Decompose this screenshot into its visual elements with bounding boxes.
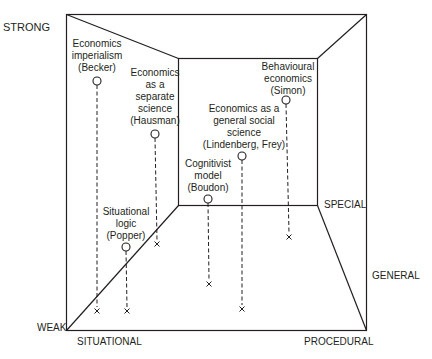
circle-marker-icon <box>151 130 159 138</box>
dashed-drop-line <box>126 251 127 307</box>
axis-label-strong: STRONG <box>3 21 50 33</box>
circle-marker-icon <box>238 152 246 160</box>
label-popper: Situational logic (Popper) <box>103 206 150 242</box>
label-boudon: Cognitivist model (Boudon) <box>185 158 231 194</box>
label-lindenberg-frey: Economics as a general social science (L… <box>203 103 285 151</box>
label-simon: Behavioural economics (Simon) <box>262 61 315 97</box>
circle-marker-icon <box>122 243 130 251</box>
circle-marker-icon <box>93 77 101 85</box>
circle-marker-icon <box>204 195 212 203</box>
label-hausman: Economics as a separate science (Hausman… <box>130 67 179 127</box>
marker-popper <box>122 243 130 314</box>
label-becker: Economics imperialism (Becker) <box>72 38 123 74</box>
axis-label-weak: WEAK <box>37 322 66 333</box>
axis-label-special: SPECIAL <box>324 199 366 210</box>
marker-lindenberg-frey <box>238 152 246 312</box>
marker-boudon <box>204 195 212 287</box>
dashed-drop-line <box>286 104 289 233</box>
axis-label-general: GENERAL <box>372 270 420 281</box>
marker-becker <box>93 77 101 314</box>
dashed-drop-line <box>208 203 209 280</box>
edge-top-right <box>318 15 367 59</box>
axis-label-procedural: PROCEDURAL <box>304 336 373 347</box>
axis-label-situational: SITUATIONAL <box>77 336 142 347</box>
edge-bottom-right <box>318 206 367 331</box>
dashed-drop-line <box>155 138 157 240</box>
